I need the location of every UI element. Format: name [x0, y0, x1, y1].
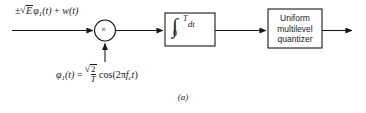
energy-symbol: E: [26, 5, 34, 16]
noise-arg: (t): [69, 5, 78, 16]
cosine-close: ): [134, 69, 137, 80]
multiply-icon: ×: [101, 25, 106, 34]
quantizer-line-2: multilevel: [270, 24, 320, 35]
basis-arg: (t): [42, 5, 51, 16]
integral-upper-limit: T: [183, 15, 187, 23]
fraction-denominator: T: [91, 74, 96, 84]
sqrt-energy: E: [21, 5, 34, 16]
figure-caption: (a): [0, 93, 366, 102]
carrier-equals: =: [77, 69, 83, 80]
carrier-basis-arg: (t): [65, 69, 74, 80]
integrator-expression: ∫T0dt: [172, 16, 195, 37]
cosine-open: cos(2: [99, 69, 121, 80]
block-diagram: ±Eφ1(t) + w(t) × ∫T0dt Uniform multileve…: [0, 0, 366, 113]
quantizer-line-1: Uniform: [270, 13, 320, 24]
quantizer-line-3: quantizer: [270, 34, 320, 45]
carrier-expression: φ1(t) = 2T cos(2πfct): [56, 64, 138, 84]
noise-symbol: w: [62, 5, 69, 16]
integral-lower-limit: 0: [173, 30, 177, 38]
integral-icon: ∫T0: [172, 16, 178, 37]
sqrt-body: 2T: [90, 64, 97, 84]
sqrt-two-over-T: 2T: [85, 64, 97, 84]
fraction-two-over-T: 2T: [91, 65, 96, 84]
differential-dt: dt: [188, 19, 195, 29]
input-signal-label: ±Eφ1(t) + w(t): [15, 5, 78, 18]
quantizer-label: Uniform multilevel quantizer: [270, 13, 320, 45]
fraction-numerator: 2: [91, 65, 96, 74]
plus-sign: +: [54, 5, 60, 16]
